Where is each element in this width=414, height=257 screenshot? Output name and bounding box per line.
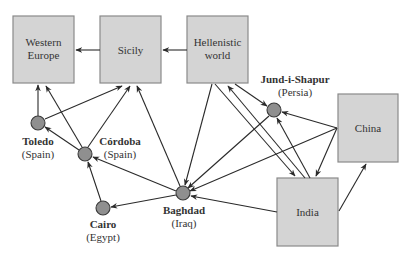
arrow-hellenistic-world-to-jund-i-shapur — [235, 84, 267, 106]
toledo-node — [31, 116, 45, 130]
jund-i-shapur-name: Jund-i-Shapur — [260, 73, 329, 85]
arrow-baghdad-to-sicily — [137, 86, 180, 186]
knowledge-transfer-diagram: Western Europe Sicily Hellenistic world … — [0, 0, 414, 257]
china-label: China — [355, 122, 381, 134]
toledo-region: (Spain) — [22, 148, 55, 161]
arrow-cairo-to-cordoba — [88, 162, 101, 201]
arrow-baghdad-to-cordoba — [93, 157, 176, 191]
western-europe-label-line2: Europe — [28, 49, 60, 61]
jund-i-shapur-node — [267, 103, 281, 117]
sicily-label: Sicily — [118, 44, 144, 56]
india-label: India — [296, 206, 319, 218]
cordoba-node — [78, 147, 92, 161]
cairo-node — [96, 201, 110, 215]
arrow-china-to-jund-i-shapur — [282, 112, 337, 128]
baghdad-name: Baghdad — [163, 204, 205, 216]
cairo-name: Cairo — [90, 218, 117, 230]
western-europe-label-line1: Western — [26, 36, 62, 48]
jund-i-shapur-region: (Persia) — [278, 86, 313, 99]
cordoba-region: (Spain) — [104, 148, 137, 161]
baghdad-node — [176, 186, 190, 200]
cordoba-name: Córdoba — [99, 135, 141, 147]
arrow-india-to-hellenistic-world — [228, 86, 305, 178]
baghdad-region: (Iraq) — [171, 217, 196, 230]
toledo-name: Toledo — [22, 135, 54, 147]
cairo-region: (Egypt) — [86, 231, 120, 244]
arrow-india-to-jund-i-shapur — [277, 118, 310, 178]
arrow-india-to-china — [339, 164, 366, 211]
hellenistic-label-line2: world — [205, 49, 231, 61]
hellenistic-label-line1: Hellenistic — [194, 36, 242, 48]
